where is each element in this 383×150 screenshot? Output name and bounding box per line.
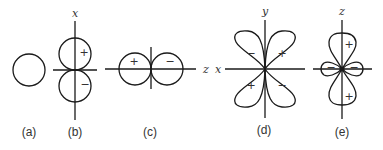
- sign-upper: +: [344, 38, 353, 51]
- caption-b: (b): [68, 125, 83, 139]
- sign-minus: −: [165, 55, 174, 68]
- axis-label-x: x: [215, 63, 222, 76]
- panel-b: x + − (b): [53, 7, 97, 139]
- panel-d: y x − + + − (d): [215, 5, 305, 137]
- caption-d: (d): [257, 123, 272, 137]
- caption-e: (e): [335, 125, 350, 139]
- sign-right: −: [349, 61, 358, 74]
- caption-a: (a): [22, 125, 37, 139]
- sign-upper-left: −: [246, 47, 255, 60]
- caption-c: (c): [143, 125, 157, 139]
- sign-lower: +: [344, 90, 353, 103]
- panel-a: (a): [13, 54, 45, 139]
- panel-e: z + − − + (e): [313, 5, 372, 139]
- sign-plus: +: [129, 55, 138, 68]
- sign-upper-right: +: [277, 47, 286, 60]
- axis-label-z: z: [338, 5, 345, 18]
- orbital-diagram: (a) x + − (b) z + − (c) y x − +: [0, 0, 383, 150]
- sign-lower-right: −: [277, 79, 286, 92]
- axis-label-y: y: [261, 5, 269, 18]
- sign-minus: −: [80, 78, 89, 91]
- axis-label-x: x: [72, 7, 79, 20]
- sign-plus: +: [79, 46, 88, 59]
- axis-label-z: z: [202, 63, 209, 76]
- s-orbital-circle: [13, 54, 45, 86]
- panel-c: z + − (c): [105, 47, 209, 139]
- sign-left: −: [326, 61, 335, 74]
- nucleus-dot: [340, 67, 345, 72]
- sign-lower-left: +: [246, 79, 255, 92]
